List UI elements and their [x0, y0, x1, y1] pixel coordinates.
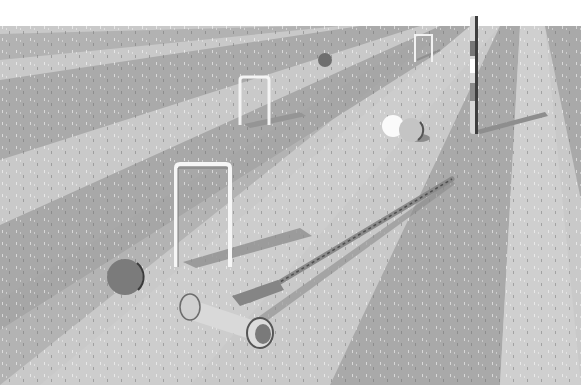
far-dark-ball — [318, 53, 332, 67]
croquet-lawn-illustration — [0, 0, 581, 385]
near-dark-ball — [107, 259, 144, 295]
grass-texture — [0, 26, 581, 385]
scene-canvas — [0, 0, 581, 385]
sky — [0, 0, 581, 27]
